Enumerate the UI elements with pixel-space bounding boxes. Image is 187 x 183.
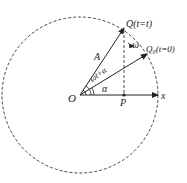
label-q-t: Q(t=t)	[126, 18, 153, 30]
label-p: P	[119, 97, 126, 108]
angle-arc-alpha	[92, 88, 94, 95]
label-angle-alpha: α	[102, 83, 108, 94]
label-origin: O	[68, 92, 76, 104]
label-q0: Q₀(t=0)	[146, 44, 175, 54]
label-x-axis: x	[160, 90, 166, 101]
phasor-diagram: O P x A Q(t=t) Q₀(t=0) ωt+α α ω	[0, 0, 187, 183]
label-omega: ω	[132, 39, 139, 50]
label-amplitude: A	[93, 51, 101, 62]
label-angle-total: ωt+α	[87, 64, 108, 83]
